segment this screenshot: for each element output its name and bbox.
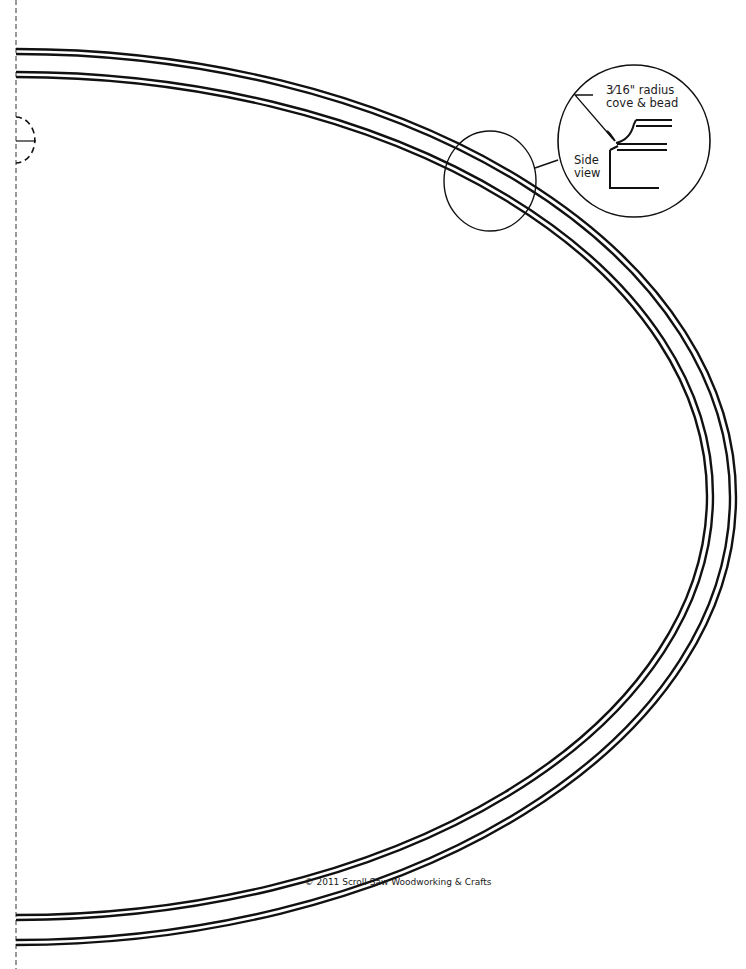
profile-spec-label: 3⁄16" radius cove & bead — [606, 84, 678, 110]
cove-bead-label: cove & bead — [606, 97, 678, 110]
side-view-label: Side view — [574, 154, 600, 180]
detail-circle — [444, 131, 536, 231]
registration-mark — [16, 117, 35, 163]
pattern-drawing — [0, 0, 746, 969]
view-label: view — [574, 167, 600, 180]
copyright-text: © 2011 Scroll Saw Woodworking & Crafts — [0, 877, 746, 887]
detail-connector — [535, 160, 558, 168]
